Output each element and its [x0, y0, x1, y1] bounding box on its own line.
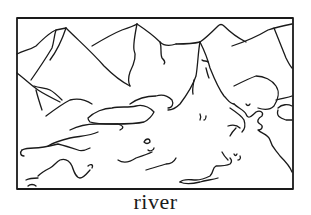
illustration-frame: [17, 18, 293, 189]
mountains: [17, 24, 292, 120]
caption: river: [0, 190, 311, 214]
river-illustration: [0, 0, 311, 215]
river: [21, 95, 292, 186]
